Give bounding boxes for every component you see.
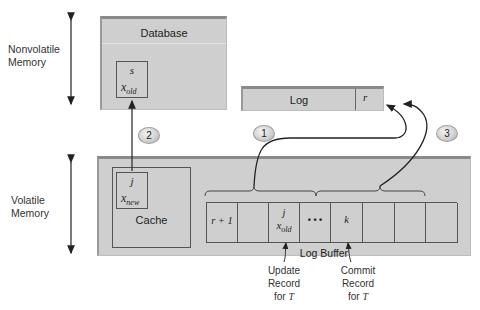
step-3-arrow xyxy=(380,104,427,186)
commit-record-pointer xyxy=(348,243,351,262)
brace-commit-group xyxy=(316,186,425,196)
brace-update-group xyxy=(205,186,316,196)
step-1-arrow xyxy=(254,105,406,186)
update-record-pointer xyxy=(284,243,286,262)
connectors xyxy=(0,0,480,310)
